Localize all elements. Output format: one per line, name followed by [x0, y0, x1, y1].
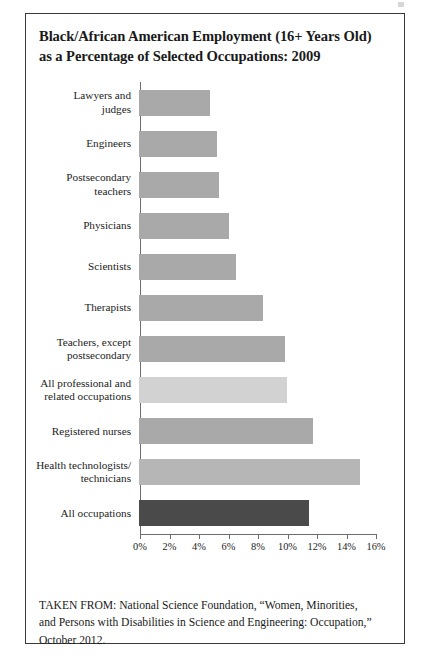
x-axis-tick [317, 534, 318, 539]
bar [139, 500, 309, 526]
figure-title-line-2: as a Percentage of Selected Occupations:… [39, 46, 393, 66]
bar-row: Health technologists/technicians [26, 452, 404, 493]
bar-category-label-line: Postsecondary [26, 171, 131, 184]
bar-category-label-line: Health technologists/ [26, 459, 131, 472]
bar-category-label: All professional andrelated occupations [26, 377, 139, 403]
bar-category-label-line: related occupations [26, 390, 131, 403]
bar-row: All occupations [26, 493, 404, 534]
x-axis-tick [229, 534, 230, 539]
bar-category-label-line: Engineers [26, 137, 131, 150]
bar [139, 213, 229, 239]
bar [139, 254, 236, 280]
bar-row: Lawyers andjudges [26, 82, 404, 123]
bar-category-label-line: Physicians [26, 219, 131, 232]
source-note: TAKEN FROM: National Science Foundation,… [39, 597, 395, 649]
bar-category-label: Registered nurses [26, 425, 139, 438]
figure-title: Black/African American Employment (16+ Y… [39, 26, 393, 66]
bar-category-label-line: Teachers, except [26, 336, 131, 349]
bar [139, 418, 313, 444]
x-axis-tick [199, 534, 200, 539]
bar-category-label-line: Registered nurses [26, 425, 131, 438]
bar-category-label-line: All professional and [26, 377, 131, 390]
x-axis-tick-label: 16% [359, 541, 393, 552]
x-axis-tick [170, 534, 171, 539]
x-axis-tick [140, 534, 141, 539]
bar-category-label: Scientists [26, 260, 139, 273]
bar-track [139, 493, 404, 534]
bar-category-label-line: Lawyers and [26, 89, 131, 102]
bar-track [139, 370, 404, 411]
page-edge-artifact [398, 2, 404, 7]
bar [139, 459, 360, 485]
bar-category-label-line: All occupations [26, 507, 131, 520]
bar-category-label: Physicians [26, 219, 139, 232]
x-axis-tick [347, 534, 348, 539]
bar-category-label: All occupations [26, 507, 139, 520]
bar-category-label: Engineers [26, 137, 139, 150]
bar-category-label-line: Therapists [26, 301, 131, 314]
bar [139, 172, 219, 198]
bar-category-label: Health technologists/technicians [26, 459, 139, 485]
bar [139, 295, 263, 321]
bar [139, 131, 217, 157]
bar-category-label-line: postsecondary [26, 349, 131, 362]
bar-track [139, 246, 404, 287]
bar-track [139, 452, 404, 493]
bar-track [139, 123, 404, 164]
bar-category-label-line: Scientists [26, 260, 131, 273]
bar-row: Scientists [26, 246, 404, 287]
bar-track [139, 164, 404, 205]
bar-chart: Lawyers andjudgesEngineersPostsecondaryt… [26, 82, 404, 572]
bar-category-label: Therapists [26, 301, 139, 314]
source-line-3: October 2012. [39, 632, 395, 649]
bar-category-label: Lawyers andjudges [26, 89, 139, 115]
bar-row: Registered nurses [26, 411, 404, 452]
x-axis-tick [376, 534, 377, 539]
bar-row: All professional andrelated occupations [26, 370, 404, 411]
x-axis-tick [288, 534, 289, 539]
bar-category-label-line: judges [26, 103, 131, 116]
bar-category-label: Teachers, exceptpostsecondary [26, 336, 139, 362]
bar [139, 336, 285, 362]
bar-category-label: Postsecondaryteachers [26, 171, 139, 197]
bar-track [139, 411, 404, 452]
source-line-2: and Persons with Disabilities in Science… [39, 614, 395, 631]
bar-category-label-line: teachers [26, 185, 131, 198]
figure-title-line-1: Black/African American Employment (16+ Y… [39, 26, 393, 46]
bar-row: Teachers, exceptpostsecondary [26, 329, 404, 370]
source-line-1: TAKEN FROM: National Science Foundation,… [39, 597, 395, 614]
bar [139, 377, 287, 403]
bar-row: Therapists [26, 287, 404, 328]
bar-track [139, 205, 404, 246]
bar [139, 90, 210, 116]
bar-category-label-line: technicians [26, 472, 131, 485]
figure-container: Black/African American Employment (16+ Y… [25, 13, 405, 644]
bar-track [139, 82, 404, 123]
bar-row: Postsecondaryteachers [26, 164, 404, 205]
bar-row: Physicians [26, 205, 404, 246]
bar-track [139, 287, 404, 328]
bar-track [139, 329, 404, 370]
x-axis-tick [258, 534, 259, 539]
bar-row: Engineers [26, 123, 404, 164]
